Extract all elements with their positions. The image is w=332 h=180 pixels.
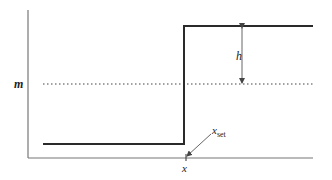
x-set-pointer-arrow <box>187 134 211 156</box>
x-set-label: xset <box>211 124 227 139</box>
step-function-line <box>43 26 313 144</box>
x-set-subscript: set <box>217 130 227 139</box>
step-diagram: m h x xset <box>0 0 332 180</box>
height-label: h <box>236 49 242 63</box>
mean-label: m <box>14 77 23 91</box>
x-label: x <box>181 162 187 174</box>
